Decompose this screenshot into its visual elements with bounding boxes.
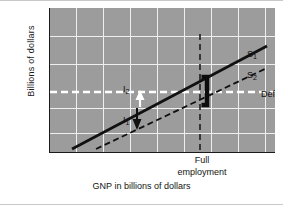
label-full-employment: Full employment [160,154,244,178]
label-full-employment-line1: Full [160,154,244,166]
label-s2-sub: 2 [253,74,257,81]
label-deflationary-gap: Deflationary gap [261,89,275,111]
label-i1: I1 [123,115,129,126]
label-deflationary-line1: Deflationary [261,89,275,99]
x-axis-title: GNP in billions of dollars [0,181,283,191]
label-s1: S1 [247,49,257,60]
label-full-employment-line2: employment [160,166,244,178]
label-i1-sub: 1 [126,119,130,126]
label-deflationary-line2: gap [261,100,275,111]
label-s2: S2 [247,70,257,81]
deflationary-gap-figure: Billions of dollars [0,0,283,205]
down-arrow-icon [133,108,142,130]
label-s1-sub: 1 [253,53,257,60]
label-i2-sub: 2 [126,88,130,95]
label-i2: I2 [123,84,129,95]
s2-line [96,68,267,149]
s1-line [72,46,267,149]
y-axis-title: Billions of dollars [26,6,36,116]
plot-area: I2 I1 S1 S2 Deflationary gap [50,8,275,152]
curves-overlay [50,8,275,152]
